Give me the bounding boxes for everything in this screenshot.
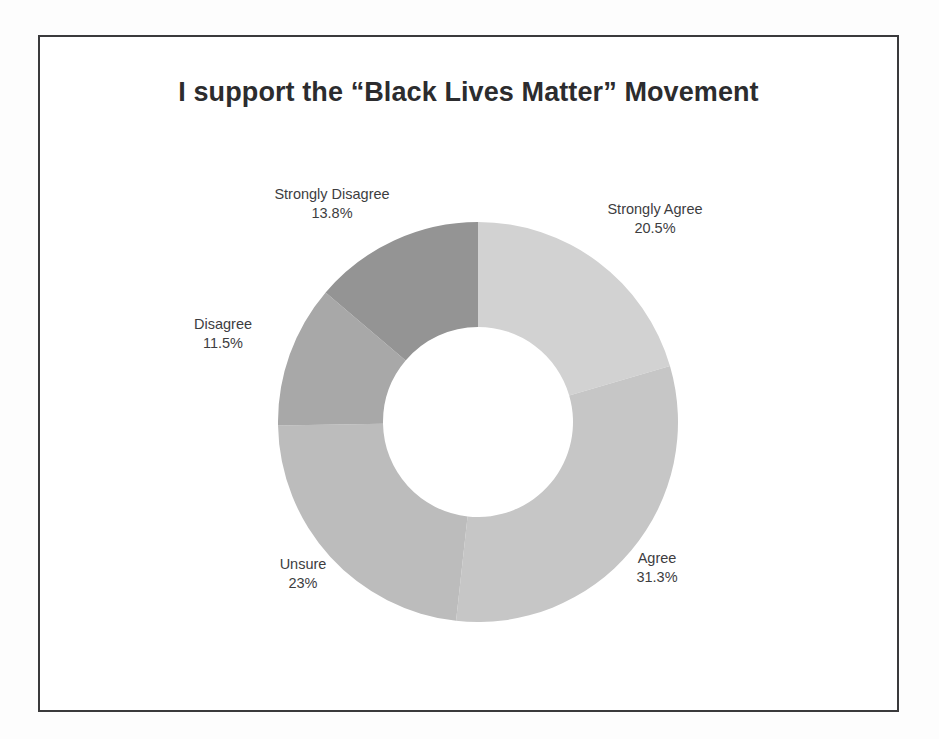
slice-label-agree-value: 31.3% [602, 568, 712, 587]
slice-label-disagree-name: Disagree [168, 315, 278, 334]
donut-chart: Strongly Disagree 13.8% Strongly Agree 2… [40, 37, 901, 714]
slice-label-unsure: Unsure 23% [248, 555, 358, 593]
donut-slice-strongly-agree [478, 222, 670, 395]
slice-label-unsure-value: 23% [248, 574, 358, 593]
slice-label-agree: Agree 31.3% [602, 549, 712, 587]
slice-label-unsure-name: Unsure [248, 555, 358, 574]
slice-label-disagree: Disagree 11.5% [168, 315, 278, 353]
page-background: I support the “Black Lives Matter” Movem… [0, 0, 939, 739]
slide-frame: I support the “Black Lives Matter” Movem… [38, 35, 899, 712]
slice-label-strongly-disagree-name: Strongly Disagree [262, 185, 402, 204]
slice-label-strongly-agree-name: Strongly Agree [585, 200, 725, 219]
slice-label-strongly-disagree-value: 13.8% [262, 204, 402, 223]
slice-label-disagree-value: 11.5% [168, 334, 278, 353]
slice-label-strongly-agree-value: 20.5% [585, 219, 725, 238]
slice-label-strongly-agree: Strongly Agree 20.5% [585, 200, 725, 238]
slice-label-agree-name: Agree [602, 549, 712, 568]
slice-label-strongly-disagree: Strongly Disagree 13.8% [262, 185, 402, 223]
